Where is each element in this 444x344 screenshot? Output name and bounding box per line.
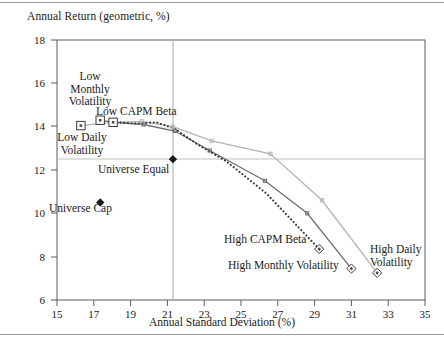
label-universe-equal: Universe Equal xyxy=(98,163,169,176)
series-endpoint-square xyxy=(109,118,117,126)
label-high-daily-volatility: High Daily Volatility xyxy=(370,243,421,268)
y-tick-10: 10 xyxy=(34,207,46,219)
x-tick-31: 31 xyxy=(346,308,357,320)
y-tick-18: 18 xyxy=(34,34,46,46)
y-axis-tick-labels: 18 16 14 12 10 8 6 xyxy=(34,34,46,306)
x-tick-27: 27 xyxy=(272,308,284,320)
label-low-daily-volatility-line1: Low Daily xyxy=(35,131,129,144)
label-universe-cap: Universe Cap xyxy=(49,202,112,215)
x-tick-33: 33 xyxy=(383,308,395,320)
x-tick-35: 35 xyxy=(420,308,432,320)
label-low-daily-volatility-line2: Volatility xyxy=(35,144,129,157)
x-tick-15: 15 xyxy=(52,308,64,320)
x-tick-29: 29 xyxy=(309,308,321,320)
series-endpoint-square xyxy=(77,121,85,129)
label-high-daily-volatility-line1: High Daily xyxy=(370,243,421,256)
x-tick-23: 23 xyxy=(199,308,211,320)
x-axis-tick-labels: 15 17 19 21 23 25 27 29 31 33 35 xyxy=(52,308,432,320)
label-low-daily-volatility: Low Daily Volatility xyxy=(35,131,129,156)
label-low-monthly-volatility-line1: Low xyxy=(54,70,126,83)
label-high-capm-beta: High CAPM Beta xyxy=(224,233,306,246)
x-tick-17: 17 xyxy=(88,308,100,320)
x-tick-19: 19 xyxy=(125,308,137,320)
label-low-monthly-volatility-line2: Monthly xyxy=(54,83,126,96)
y-tick-6: 6 xyxy=(40,294,46,306)
figure-chart: Annual Return (geometric, %) Annual Stan… xyxy=(0,0,444,344)
x-tick-21: 21 xyxy=(162,308,173,320)
y-tick-16: 16 xyxy=(34,77,46,89)
label-low-capm-beta: Low CAPM Beta xyxy=(96,105,177,118)
y-tick-12: 12 xyxy=(34,164,45,176)
y-tick-8: 8 xyxy=(40,251,46,263)
plot-canvas: 18 16 14 12 10 8 6 15 17 19 21 xyxy=(0,0,444,344)
label-high-daily-volatility-line2: Volatility xyxy=(370,256,421,269)
label-low-monthly-volatility: Low Monthly Volatility xyxy=(54,70,126,108)
x-axis-ticks xyxy=(57,300,425,306)
x-tick-25: 25 xyxy=(236,308,248,320)
label-high-monthly-volatility: High Monthly Volatility xyxy=(228,259,339,272)
